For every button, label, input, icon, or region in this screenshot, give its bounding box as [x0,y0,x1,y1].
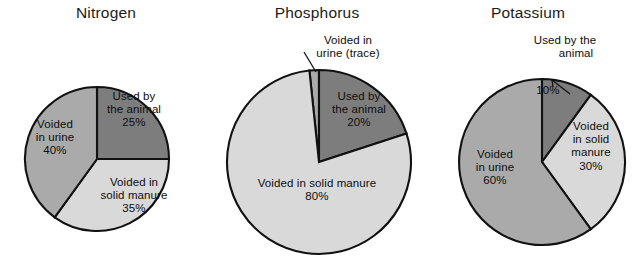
slice-label-voided-in-urine: Voided in urine 40% [19,118,91,158]
slice-label-voided-in-solid-manure: Voided in solid manure 80% [236,177,398,203]
chart-panel-phosphorus: Phosphorus Voided in urine (trace) Used … [212,0,422,265]
slice-label-used-by-animal: Used by the animal [506,34,624,60]
slice-label-voided-in-urine: Voided in urine 60% [460,148,530,188]
slice-label-used-by-animal: Used by the animal 20% [320,90,398,130]
slice-label-voided-in-urine-trace: Voided in urine (trace) [294,34,402,60]
slice-label-voided-in-solid-manure: Voided in solid manure 35% [88,176,180,216]
slice-label-used-by-animal: Used by the animal 25% [96,90,172,130]
chart-panel-potassium: Potassium Used by the animal 10% Voided … [422,0,634,265]
pie-chart-figure: Nitrogen Used by the animal 25% Voided i… [0,0,634,265]
slice-pct-used-by-animal: 10% [528,84,568,97]
chart-panel-nitrogen: Nitrogen Used by the animal 25% Voided i… [0,0,212,265]
slice-label-voided-in-solid-manure: Voided in solid manure 30% [560,120,622,173]
